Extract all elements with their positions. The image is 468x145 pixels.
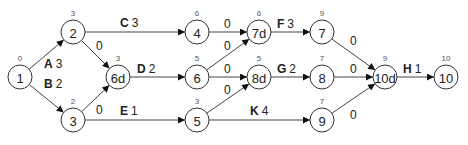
node-label: 2 [69,26,76,41]
edge-label: D2 [137,62,156,76]
edge-2-to-4: C3 [85,16,185,32]
node-time: 7 [320,97,325,106]
edge-1-to-2: A3 [29,40,64,71]
edge-label: K4 [250,104,269,118]
node-10d: 10d9 [373,54,397,89]
node-9: 97 [310,97,334,132]
edge-3-to-6d: 0 [82,85,110,117]
edge-2-to-6d: 0 [81,39,109,69]
edge-label: 0 [350,108,357,122]
node-3: 32 [61,97,85,132]
node-time: 3 [116,54,121,63]
edge-label: B2 [44,77,63,91]
node-label: 9 [318,114,325,129]
edge-label: 0 [350,34,357,48]
node-time: 9 [320,9,325,18]
edge-8d-to-8: G2 [271,62,310,77]
node-6d: 6d3 [106,54,130,89]
edge-label: 0 [96,39,103,53]
node-time: 6 [195,9,200,18]
edge-9-to-10d: 0 [332,84,375,122]
node-time: 6 [257,9,262,18]
node-time: 3 [195,97,200,106]
node-time: 0 [18,54,23,63]
edge-label: 0 [224,83,231,97]
node-time: 5 [257,54,262,63]
node-6: 65 [185,54,209,89]
edge-5-to-8d: 0 [207,83,249,113]
activity-network-diagram: A3B2C300E1D20000K4F3G2000H1 1023326d3466… [0,0,468,145]
edge-label: F3 [277,17,294,31]
node-8: 87 [310,54,334,89]
edge-6d-to-6: D2 [130,62,185,77]
node-label: 3 [69,114,76,129]
node-time: 5 [195,54,200,63]
nodes: 1023326d34665537d68d579879710d91010 [8,9,458,132]
edge-label: 0 [96,103,103,117]
edge-label: C3 [120,16,139,30]
node-label: 10d [374,71,396,86]
edge-label: 0 [224,62,231,76]
edge-label: 0 [224,17,231,31]
edge-label: H1 [403,62,422,76]
edge-label: 0 [224,39,231,53]
edge-5-to-9: K4 [209,104,310,120]
node-7: 79 [310,9,334,44]
edge-label: G2 [277,62,296,76]
edge-7d-to-7: F3 [271,17,310,32]
edge-1-to-3: B2 [29,77,63,112]
node-label: 8 [318,71,325,86]
node-label: 8d [252,71,266,86]
node-10: 1010 [434,54,458,89]
node-label: 5 [193,114,200,129]
node-label: 6d [111,71,125,86]
edge-4-to-7d: 0 [209,17,247,32]
node-time: 7 [320,54,325,63]
edge-label: A3 [44,57,63,71]
node-time: 9 [383,54,388,63]
node-2: 23 [61,9,85,44]
node-label: 7d [252,26,266,41]
node-time: 2 [71,97,76,106]
node-5: 53 [185,97,209,132]
node-label: 7 [318,26,325,41]
node-label: 1 [16,71,23,86]
node-1: 10 [8,54,32,89]
edge-10d-to-10: H1 [397,62,434,77]
node-label: 10 [439,71,453,86]
node-4: 46 [185,9,209,44]
node-8d: 8d5 [247,54,271,89]
node-time: 3 [71,9,76,18]
edge-label: E1 [120,104,138,118]
edge-label: 0 [350,62,357,76]
node-label: 6 [193,71,200,86]
node-7d: 7d6 [247,9,271,44]
node-time: 10 [442,54,451,63]
edges: A3B2C300E1D20000K4F3G2000H1 [29,16,434,122]
node-label: 4 [193,26,200,41]
